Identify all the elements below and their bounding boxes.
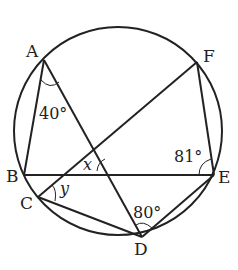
- point-label-D: D: [134, 239, 148, 259]
- angle-arc-D: [136, 223, 152, 228]
- angle-label-x: x: [83, 155, 92, 174]
- geometry-diagram: A F B C D E 40° 81° 80° x y: [0, 0, 238, 270]
- point-label-F: F: [203, 46, 215, 66]
- circumcircle: [14, 27, 222, 235]
- point-label-A: A: [25, 41, 39, 61]
- angle-label-y: y: [59, 179, 70, 198]
- angle-arc-y: [52, 185, 56, 201]
- angle-label-D: 80°: [133, 203, 161, 222]
- segment-CF: [38, 62, 197, 197]
- angle-label-A: 40°: [39, 104, 67, 123]
- point-label-C: C: [20, 193, 33, 213]
- angle-label-E: 81°: [174, 147, 202, 166]
- point-label-E: E: [218, 167, 230, 187]
- segment-AD: [44, 60, 142, 237]
- point-label-B: B: [6, 166, 19, 186]
